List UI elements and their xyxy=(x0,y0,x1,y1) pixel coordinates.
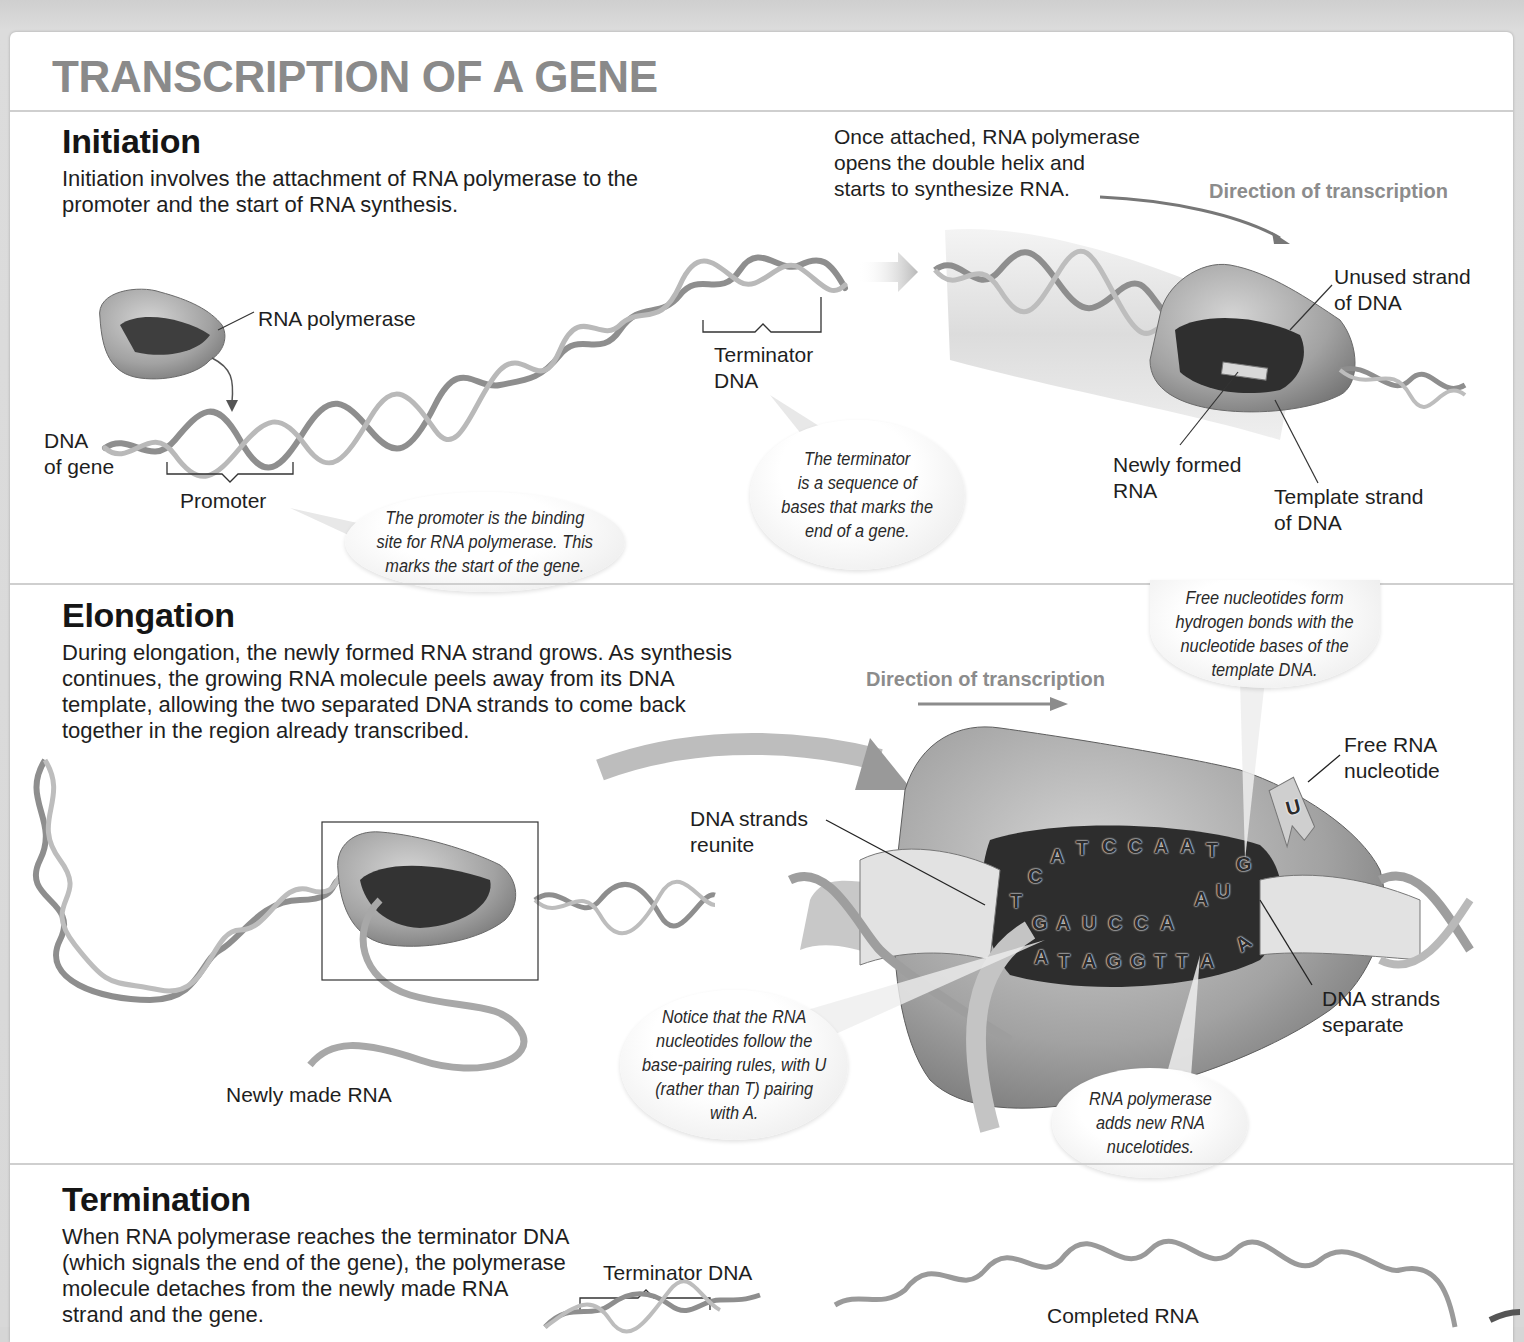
terminator-dna-label: Terminator DNA xyxy=(603,1260,752,1286)
dna-helix-icon xyxy=(545,1281,760,1331)
completed-rna-label: Completed RNA xyxy=(1047,1303,1199,1329)
